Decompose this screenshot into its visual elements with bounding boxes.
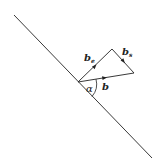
burgers-vector-diagram: be bs b α <box>0 0 162 168</box>
label-b-s: bs <box>122 46 133 58</box>
arrow-b-e-icon <box>92 65 97 70</box>
label-b: b <box>102 81 109 92</box>
dislocation-line <box>14 15 152 158</box>
label-alpha: α <box>86 83 93 94</box>
arrow-b-icon <box>102 76 107 80</box>
label-b-e: be <box>84 52 95 64</box>
